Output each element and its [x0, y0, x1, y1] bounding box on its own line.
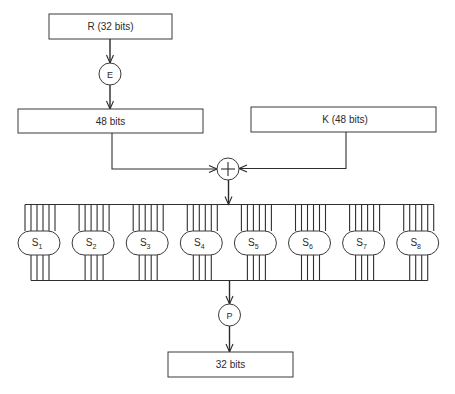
sbox-label-subscript: 3	[147, 243, 151, 250]
sbox-label-subscript: 6	[309, 243, 313, 250]
sbox-5: S5	[234, 205, 276, 281]
expanded-48bits-box: 48 bits	[18, 109, 203, 133]
input-r-box: R (32 bits)	[49, 14, 172, 39]
sbox-label-subscript: 5	[255, 243, 259, 250]
sbox-3: S3	[126, 205, 168, 281]
sbox-array: S1S2S3S4S5S6S7S8	[18, 205, 439, 281]
connector-key-to-xor	[239, 132, 346, 169]
sbox-label-subscript: 4	[201, 243, 205, 250]
sbox-label-subscript: 2	[92, 243, 96, 250]
xor-node	[217, 158, 239, 180]
sbox-7: S7	[343, 205, 385, 281]
sbox-label-subscript: 8	[417, 243, 421, 250]
expansion-node: E	[99, 63, 121, 85]
input-r-label: R (32 bits)	[87, 21, 133, 32]
key-box-label: K (48 bits)	[322, 114, 368, 125]
output-box-label: 32 bits	[216, 359, 245, 370]
sbox-8: S8	[397, 205, 439, 281]
sbox-1: S1	[18, 205, 60, 281]
expanded-box-label: 48 bits	[96, 116, 125, 127]
connector-48bits-to-xor	[112, 133, 217, 169]
permutation-node: P	[219, 304, 241, 326]
sbox-4: S4	[180, 205, 222, 281]
permutation-label: P	[226, 311, 232, 321]
sbox-label-subscript: 1	[38, 243, 42, 250]
sbox-label-subscript: 7	[363, 243, 367, 250]
output-32bits-box: 32 bits	[168, 352, 293, 377]
sbox-6: S6	[289, 205, 331, 281]
des-f-function-diagram: R (32 bits) E 48 bits K (48 bits) S1S2S3…	[0, 0, 455, 394]
expansion-label: E	[107, 70, 113, 80]
key-k-box: K (48 bits)	[251, 107, 436, 132]
sbox-2: S2	[72, 205, 114, 281]
